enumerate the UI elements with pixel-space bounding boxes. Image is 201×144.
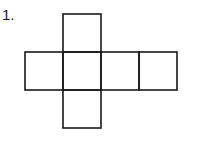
net-square-far-right (139, 52, 177, 90)
cube-net-diagram (0, 0, 201, 144)
net-square-left (25, 52, 63, 90)
net-square-bottom (63, 90, 101, 128)
net-square-top (63, 14, 101, 52)
net-square-right (101, 52, 139, 90)
net-square-center (63, 52, 101, 90)
